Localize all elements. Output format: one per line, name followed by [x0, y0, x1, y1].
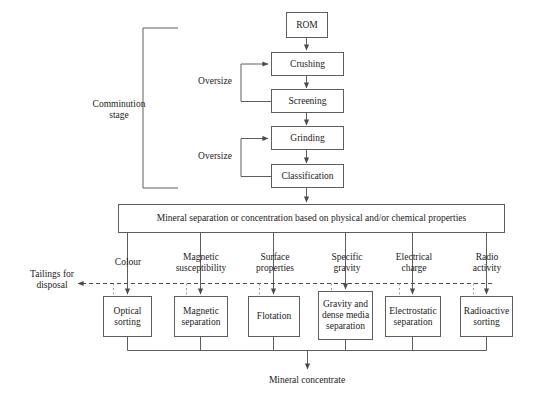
box-magnetic-separation[interactable]: Magnetic separation [174, 296, 228, 337]
mineral-concentrate-label: Mineral concentrate [247, 375, 367, 386]
flowchart-canvas: ROM Crushing Screening Grinding Classifi… [0, 0, 537, 397]
box-classification[interactable]: Classification [271, 164, 344, 188]
oversize-label-1: Oversize [190, 76, 240, 87]
box-crushing[interactable]: Crushing [271, 52, 344, 76]
box-rom[interactable]: ROM [286, 12, 328, 38]
loop-classification-to-grinding [241, 139, 271, 177]
box-radioactive-sorting[interactable]: Radioactive sorting [460, 296, 513, 337]
box-grinding[interactable]: Grinding [271, 126, 344, 150]
separation-bar[interactable]: Mineral separation or concentration base… [118, 204, 505, 233]
box-optical-sorting[interactable]: Optical sorting [103, 296, 152, 337]
box-gravity-dense-media[interactable]: Gravity and dense media separation [318, 291, 373, 340]
property-label-radio-activity: Radio activity [460, 252, 514, 274]
box-screening[interactable]: Screening [271, 89, 344, 113]
property-label-magnetic-susceptibility: Magnetic susceptibility [168, 252, 234, 274]
comminution-stage-label: Comminution stage [76, 99, 162, 121]
oversize-label-2: Oversize [190, 151, 240, 162]
tailings-label: Tailings for disposal [14, 269, 90, 291]
property-label-specific-gravity: Specific gravity [318, 252, 376, 274]
loop-screening-to-crushing [241, 64, 271, 102]
box-flotation[interactable]: Flotation [248, 296, 300, 337]
property-label-colour: Colour [100, 257, 156, 268]
property-label-surface-properties: Surface properties [246, 252, 304, 274]
box-electrostatic-separation[interactable]: Electrostatic separation [385, 296, 441, 337]
flowchart-connectors [0, 0, 537, 397]
property-label-electrical-charge: Electrical charge [384, 252, 444, 274]
